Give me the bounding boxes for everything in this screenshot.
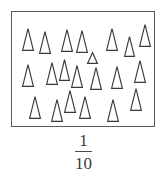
fraction-numerator: 1 xyxy=(75,131,92,151)
triangle-outline-icon xyxy=(139,24,151,47)
triangle-layer xyxy=(12,12,154,126)
triangle-outline-icon xyxy=(76,30,88,53)
triangle-outline-icon xyxy=(64,90,76,113)
triangle-outline-icon xyxy=(59,59,70,81)
triangle-outline-icon xyxy=(29,96,41,119)
triangle-outline-icon xyxy=(111,66,123,89)
fraction-denominator: 10 xyxy=(75,152,92,174)
triangle-outline-icon xyxy=(107,99,119,122)
triangle-outline-icon xyxy=(39,31,51,54)
triangle-outline-icon xyxy=(130,88,142,111)
triangle-outline-icon xyxy=(134,60,146,83)
triangle-outline-icon xyxy=(79,96,91,119)
triangle-container-box xyxy=(11,11,155,127)
fraction-label: 1 10 xyxy=(0,131,167,174)
triangle-outline-icon xyxy=(51,99,63,122)
triangle-outline-icon xyxy=(22,28,34,51)
triangle-outline-icon xyxy=(87,52,98,64)
triangle-outline-icon xyxy=(71,65,83,88)
triangle-outline-icon xyxy=(22,64,34,87)
triangle-outline-icon xyxy=(124,36,135,57)
triangle-outline-icon xyxy=(106,28,118,51)
triangle-outline-icon xyxy=(46,62,58,85)
triangle-outline-icon xyxy=(61,29,73,52)
triangle-outline-icon xyxy=(90,67,102,90)
fraction: 1 10 xyxy=(75,131,92,174)
triangle-count-figure: 1 10 xyxy=(0,0,167,181)
